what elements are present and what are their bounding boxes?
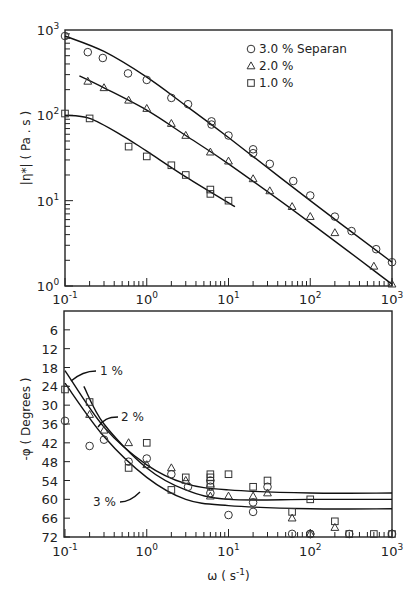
y-tick-label: 101 — [37, 192, 59, 209]
circle-marker — [266, 160, 274, 168]
circle-marker — [289, 177, 297, 185]
legend: 3.0 % Separan2.0 %1.0 % — [247, 42, 347, 90]
circle-marker — [306, 192, 314, 200]
triangle-marker — [249, 492, 257, 499]
x-tick-label: 103 — [381, 290, 403, 307]
circle-marker — [225, 511, 233, 519]
leader-line — [120, 492, 140, 502]
legend-label: 1.0 % — [259, 76, 293, 90]
y-tick-label: 48 — [41, 455, 58, 470]
legend-label: 3.0 % Separan — [259, 42, 347, 56]
square-marker — [143, 153, 150, 160]
x-tick-label: 10-1 — [52, 542, 78, 559]
square-marker — [143, 440, 150, 447]
leader-line — [98, 417, 118, 427]
circle-marker — [86, 442, 94, 450]
y-tick-label: 36 — [41, 417, 58, 432]
y-tick-label: 30 — [41, 398, 58, 413]
triangle-marker — [167, 464, 175, 471]
triangle-marker — [288, 203, 296, 210]
triangle-marker — [247, 62, 255, 69]
triangle-marker — [306, 213, 314, 220]
y-tick-label: 60 — [41, 492, 58, 507]
x-tick-label: 103 — [381, 542, 403, 559]
bottom-x-axis-label: ω ( s-1) — [207, 567, 249, 583]
y-tick-label: 18 — [41, 361, 58, 376]
fit-curve — [65, 371, 392, 494]
top-panel-complex-viscosity: 10010110210310-1100101102103|η*| ( Pa . … — [19, 21, 403, 307]
y-tick-label: 66 — [41, 511, 58, 526]
x-tick-label: 102 — [299, 290, 321, 307]
top-y-axis-label: |η*| ( Pa . s ) — [19, 111, 33, 185]
annotation-label: 1 % — [100, 364, 123, 378]
annotation-label: 3 % — [93, 495, 116, 509]
series-circle — [61, 32, 396, 266]
legend-label: 2.0 % — [259, 59, 293, 73]
y-tick-label: 24 — [41, 379, 58, 394]
curve-annotation: 3 % — [93, 492, 140, 509]
bottom-panel-phase-angle: 6121824303642485460667210-1100101102103ω… — [19, 311, 403, 583]
y-tick-label: 12 — [41, 342, 58, 357]
rheology-figure: 10010110210310-1100101102103|η*| ( Pa . … — [0, 0, 416, 596]
x-tick-label: 101 — [217, 542, 239, 559]
fit-curve — [65, 36, 392, 262]
y-tick-label: 72 — [41, 530, 58, 545]
fit-curve — [84, 386, 392, 500]
triangle-marker — [125, 439, 133, 446]
fit-curve — [79, 76, 392, 284]
x-tick-label: 10-1 — [52, 290, 78, 307]
y-tick-label: 54 — [41, 474, 58, 489]
triangle-marker — [331, 229, 339, 236]
y-tick-label: 102 — [37, 106, 59, 123]
y-tick-label: 103 — [37, 21, 59, 38]
x-tick-label: 100 — [136, 290, 159, 307]
triangle-marker — [225, 492, 233, 499]
x-tick-label: 100 — [136, 542, 159, 559]
curve-annotation: 1 % — [71, 364, 123, 381]
leader-line — [71, 371, 96, 381]
triangle-marker — [225, 157, 233, 164]
x-tick-label: 102 — [299, 542, 321, 559]
series-triangle — [84, 77, 396, 287]
x-tick-label: 101 — [217, 290, 239, 307]
square-marker — [250, 483, 257, 490]
y-tick-label: 42 — [41, 436, 58, 451]
y-tick-label: 6 — [50, 323, 58, 338]
square-marker — [248, 80, 255, 87]
circle-marker — [124, 70, 132, 78]
circle-marker — [99, 54, 107, 62]
square-marker — [125, 143, 132, 150]
circle-marker — [249, 508, 257, 516]
series-square — [62, 386, 396, 537]
circle-marker — [168, 470, 176, 478]
square-marker — [225, 471, 232, 478]
annotation-label: 2 % — [121, 410, 144, 424]
bottom-y-axis-label: -φ ( Degrees ) — [19, 378, 33, 461]
circle-marker — [247, 45, 255, 53]
circle-marker — [84, 48, 92, 56]
